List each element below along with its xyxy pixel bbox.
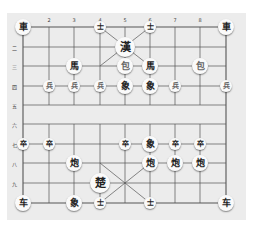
- xiangqi-piece[interactable]: 象: [142, 136, 158, 152]
- row-label: 五: [12, 102, 17, 109]
- column-label: 8: [198, 17, 201, 23]
- xiangqi-piece[interactable]: 馬: [142, 58, 158, 74]
- xiangqi-piece[interactable]: 象: [142, 78, 158, 94]
- xiangqi-piece[interactable]: 兵: [220, 80, 232, 92]
- xiangqi-piece[interactable]: 車: [218, 19, 234, 35]
- xiangqi-piece[interactable]: 象: [117, 78, 133, 94]
- column-label: 5: [123, 17, 126, 23]
- xiangqi-piece[interactable]: 兵: [43, 80, 55, 92]
- xiangqi-piece[interactable]: 士: [94, 21, 106, 33]
- xiangqi-piece[interactable]: 包: [117, 58, 133, 74]
- row-label: 七: [12, 141, 17, 148]
- row-label: 九: [12, 180, 17, 187]
- row-label: 八: [12, 160, 17, 167]
- row-label: 二: [12, 44, 17, 51]
- column-label: 7: [173, 17, 176, 23]
- xiangqi-piece[interactable]: 兵: [169, 80, 181, 92]
- xiangqi-piece[interactable]: 卒: [43, 138, 55, 150]
- xiangqi-piece[interactable]: 炮: [66, 155, 82, 171]
- row-label: 四: [12, 83, 17, 90]
- xiangqi-piece[interactable]: 卒: [119, 138, 131, 150]
- xiangqi-piece[interactable]: 车: [218, 195, 234, 211]
- xiangqi-piece[interactable]: 漢: [115, 37, 135, 57]
- xiangqi-piece[interactable]: 車: [15, 19, 31, 35]
- row-label: 三: [12, 63, 17, 70]
- xiangqi-piece[interactable]: 车: [15, 195, 31, 211]
- xiangqi-piece[interactable]: 楚: [90, 173, 110, 193]
- column-label: 3: [72, 17, 75, 23]
- xiangqi-piece[interactable]: 象: [66, 195, 82, 211]
- xiangqi-piece[interactable]: 卒: [169, 138, 181, 150]
- xiangqi-piece[interactable]: 炮: [142, 155, 158, 171]
- column-label: 2: [47, 17, 50, 23]
- xiangqi-piece[interactable]: 士: [144, 197, 156, 209]
- xiangqi-piece[interactable]: 兵: [68, 80, 80, 92]
- xiangqi-piece[interactable]: 炮: [167, 155, 183, 171]
- board-grid: [0, 0, 253, 231]
- xiangqi-piece[interactable]: 卒: [194, 138, 206, 150]
- xiangqi-piece[interactable]: 卒: [17, 138, 29, 150]
- xiangqi-piece[interactable]: 炮: [192, 155, 208, 171]
- xiangqi-piece[interactable]: 士: [144, 21, 156, 33]
- row-label: 六: [12, 121, 17, 128]
- xiangqi-piece[interactable]: 士: [94, 197, 106, 209]
- xiangqi-piece[interactable]: 兵: [94, 80, 106, 92]
- xiangqi-piece[interactable]: 包: [192, 58, 208, 74]
- xiangqi-piece[interactable]: 馬: [66, 58, 82, 74]
